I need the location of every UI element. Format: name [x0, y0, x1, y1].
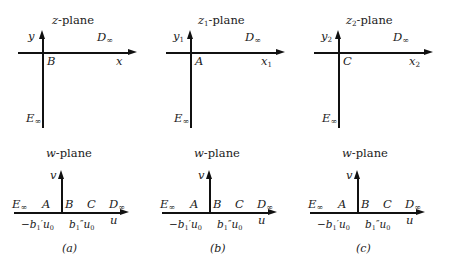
point-label-b: B: [65, 199, 73, 211]
e-infinity-label: E∞: [174, 113, 189, 126]
x-axis-arrowhead: [128, 49, 137, 55]
tick-label-right: b1″u0: [69, 219, 94, 231]
point-label-b: B: [361, 199, 369, 211]
y-axis-arrowhead: [39, 30, 45, 39]
origin-point-label: B: [47, 56, 55, 68]
u-axis-line: [14, 212, 122, 214]
u-axis-line: [310, 212, 418, 214]
y1-axis-line: [190, 36, 192, 128]
tick-label-right: b1″u0: [365, 219, 390, 231]
conformal-mapping-figure: z-plane y x D∞ B E∞ w-plane v u E∞ A B C…: [0, 0, 457, 269]
y1-axis-label: y1: [173, 31, 184, 43]
e-infinity-label: E∞: [322, 113, 337, 126]
tick-label-left: −b1′u0: [317, 219, 350, 231]
x2-axis-label: x2: [409, 56, 420, 68]
e-infinity-label: E∞: [26, 113, 41, 126]
point-label-c: C: [383, 199, 392, 211]
x2-axis-arrowhead: [424, 49, 433, 55]
u-axis-label: u: [110, 215, 117, 227]
tick-label-left: −b1′u0: [169, 219, 202, 231]
d-infinity-label: D∞: [97, 32, 113, 45]
y2-axis-label: y2: [321, 31, 332, 43]
y2-axis-arrowhead: [335, 30, 341, 39]
origin-point-label: C: [343, 56, 352, 68]
y2-axis-line: [338, 36, 340, 128]
e-infinity-label: E∞: [12, 199, 27, 212]
v-axis-arrowhead: [206, 170, 212, 179]
v-axis-arrowhead: [354, 170, 360, 179]
e-infinity-label: E∞: [308, 199, 323, 212]
d-infinity-label: D∞: [109, 199, 125, 212]
u-axis-line: [162, 212, 270, 214]
w-plane-title: w-plane: [342, 148, 388, 160]
origin-point-label: A: [195, 56, 203, 68]
point-label-b: B: [213, 199, 221, 211]
tick-label-right: b1″u0: [217, 219, 242, 231]
z-plane-title: z-plane: [52, 15, 94, 27]
point-label-a: A: [338, 199, 346, 211]
e-infinity-label: E∞: [160, 199, 175, 212]
point-label-a: A: [42, 199, 50, 211]
x-axis-label: x: [116, 56, 123, 68]
panel-caption: (b): [210, 243, 226, 254]
u-axis-label: u: [258, 215, 265, 227]
y-axis-line: [42, 36, 44, 128]
panel-b: z1-plane y1 x1 D∞ A E∞ w-plane v u E∞ A …: [148, 0, 298, 269]
v-axis-label: v: [50, 170, 57, 182]
d-infinity-label: D∞: [393, 32, 409, 45]
tick-label-left: −b1′u0: [21, 219, 54, 231]
z1-plane-title: z1-plane: [198, 15, 245, 27]
w-plane-title: w-plane: [194, 148, 240, 160]
v-axis-line: [209, 176, 211, 214]
x-axis-line: [18, 52, 130, 54]
z2-plane-title: z2-plane: [346, 15, 393, 27]
point-label-a: A: [190, 199, 198, 211]
y1-axis-arrowhead: [187, 30, 193, 39]
v-axis-label: v: [346, 170, 353, 182]
d-infinity-label: D∞: [257, 199, 273, 212]
point-label-c: C: [235, 199, 244, 211]
panel-a: z-plane y x D∞ B E∞ w-plane v u E∞ A B C…: [0, 0, 150, 269]
panel-c: z2-plane y2 x2 D∞ C E∞ w-plane v u E∞ A …: [296, 0, 446, 269]
d-infinity-label: D∞: [245, 32, 261, 45]
v-axis-line: [357, 176, 359, 214]
w-plane-title: w-plane: [46, 148, 92, 160]
panel-caption: (c): [356, 243, 371, 254]
v-axis-line: [61, 176, 63, 214]
panel-caption: (a): [62, 243, 77, 254]
v-axis-label: v: [198, 170, 205, 182]
point-label-c: C: [87, 199, 96, 211]
u-axis-label: u: [406, 215, 413, 227]
v-axis-arrowhead: [58, 170, 64, 179]
x1-axis-label: x1: [261, 56, 272, 68]
d-infinity-label: D∞: [405, 199, 421, 212]
x1-axis-arrowhead: [276, 49, 285, 55]
y-axis-label: y: [28, 31, 35, 43]
